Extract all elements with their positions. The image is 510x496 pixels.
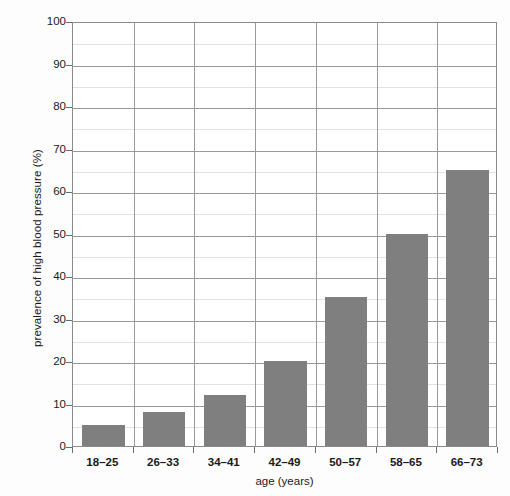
y-tick-label: 60 <box>40 186 66 198</box>
category-divider <box>377 23 378 446</box>
x-tick-label: 42–49 <box>269 457 301 469</box>
category-divider <box>316 23 317 446</box>
x-tick-mark <box>193 447 194 453</box>
minor-gridline <box>73 342 496 343</box>
bar <box>82 425 125 446</box>
y-tick-label: 90 <box>40 59 66 71</box>
major-gridline <box>73 108 496 109</box>
major-gridline <box>73 236 496 237</box>
y-axis-tick-labels: 0102030405060708090100 <box>38 0 66 496</box>
major-gridline <box>73 151 496 152</box>
major-gridline <box>73 193 496 194</box>
y-tick-label: 0 <box>40 441 66 453</box>
minor-gridline <box>73 87 496 88</box>
x-tick-label: 26–33 <box>147 457 179 469</box>
bar-chart: prevalence of high blood pressure (%) 01… <box>0 0 510 496</box>
minor-gridline <box>73 172 496 173</box>
y-tick-label: 70 <box>40 144 66 156</box>
category-divider <box>194 23 195 446</box>
x-tick-label: 34–41 <box>208 457 240 469</box>
y-tick-label: 40 <box>40 271 66 283</box>
category-divider <box>134 23 135 446</box>
major-gridline <box>73 66 496 67</box>
bar <box>143 412 186 446</box>
x-tick-label: 18–25 <box>86 457 118 469</box>
x-tick-label: 50–57 <box>329 457 361 469</box>
x-tick-label: 58–65 <box>390 457 422 469</box>
x-tick-mark <box>315 447 316 453</box>
minor-gridline <box>73 129 496 130</box>
x-axis-tick-labels: 18–2526–3334–4142–4950–5758–6566–73 <box>72 457 497 473</box>
y-tick-label: 80 <box>40 101 66 113</box>
major-gridline <box>73 321 496 322</box>
bar <box>446 170 489 446</box>
bar <box>325 297 368 446</box>
minor-gridline <box>73 299 496 300</box>
minor-gridline <box>73 214 496 215</box>
minor-gridline <box>73 44 496 45</box>
y-tick-label: 20 <box>40 356 66 368</box>
bar <box>264 361 307 446</box>
x-tick-mark <box>436 447 437 453</box>
y-tick-label: 50 <box>40 229 66 241</box>
major-gridline <box>73 278 496 279</box>
category-divider <box>437 23 438 446</box>
category-divider <box>255 23 256 446</box>
minor-gridline <box>73 257 496 258</box>
x-tick-mark <box>254 447 255 453</box>
x-tick-label: 66–73 <box>451 457 483 469</box>
x-tick-mark <box>376 447 377 453</box>
x-tick-mark <box>72 447 73 453</box>
y-tick-label: 10 <box>40 399 66 411</box>
bar <box>204 395 247 446</box>
x-tick-mark <box>497 447 498 453</box>
x-tick-mark <box>133 447 134 453</box>
y-tick-label: 30 <box>40 314 66 326</box>
x-axis-title: age (years) <box>72 475 497 487</box>
plot-area <box>72 22 497 447</box>
y-tick-label: 100 <box>40 16 66 28</box>
bar <box>386 234 429 447</box>
